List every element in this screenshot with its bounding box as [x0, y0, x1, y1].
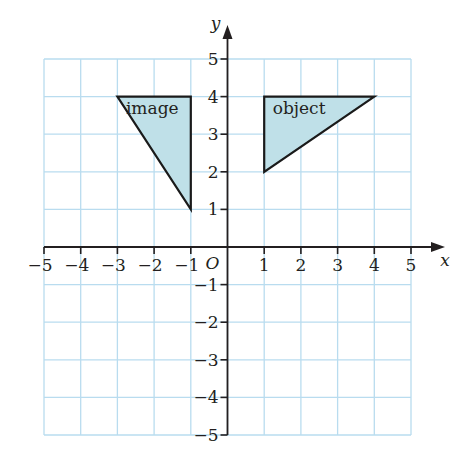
- y-axis-label: y: [210, 13, 221, 33]
- tick-labels: −5−4−3−2−112345−5−4−3−2−112345Oxy: [27, 13, 450, 445]
- y-tick-label: 2: [208, 162, 219, 182]
- x-tick-label: −2: [138, 255, 163, 275]
- y-tick-label: 3: [208, 124, 219, 144]
- x-tick-label: 4: [369, 255, 380, 275]
- object-label: object: [273, 98, 326, 118]
- x-tick-label: −3: [101, 255, 126, 275]
- x-tick-label: −4: [64, 255, 89, 275]
- x-tick-label: −5: [27, 255, 52, 275]
- axes: [44, 25, 445, 435]
- y-tick-label: 5: [208, 49, 219, 69]
- y-tick-label: 4: [208, 87, 219, 107]
- y-tick-label: −2: [193, 312, 218, 332]
- y-tick-label: −1: [193, 275, 218, 295]
- origin-label: O: [206, 253, 220, 273]
- y-tick-label: −5: [193, 425, 218, 445]
- y-axis-arrow-icon: [223, 25, 233, 39]
- triangles: imageobject: [117, 97, 374, 210]
- y-tick-label: −4: [193, 387, 218, 407]
- coordinate-plane: imageobject −5−4−3−2−112345−5−4−3−2−1123…: [0, 0, 466, 475]
- y-tick-label: 1: [208, 199, 219, 219]
- x-tick-label: 3: [332, 255, 343, 275]
- x-tick-label: 1: [259, 255, 270, 275]
- x-tick-label: 5: [406, 255, 417, 275]
- x-tick-label: −1: [174, 255, 199, 275]
- x-axis-label: x: [440, 250, 450, 270]
- y-tick-label: −3: [193, 350, 218, 370]
- x-tick-label: 2: [295, 255, 306, 275]
- image-label: image: [126, 98, 179, 118]
